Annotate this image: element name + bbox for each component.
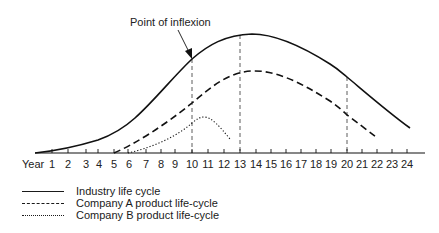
legend: Industry life cycle Company A product li… bbox=[22, 185, 219, 221]
svg-text:6: 6 bbox=[126, 158, 132, 170]
company-a-life-cycle-line bbox=[114, 71, 376, 153]
inflexion-arrow-head-icon bbox=[185, 48, 192, 59]
x-tick-labels: 1 2 3 4 5 6 7 8 9 10 11 12 13 14 15 16 1… bbox=[49, 158, 413, 170]
svg-text:23: 23 bbox=[386, 158, 398, 170]
svg-text:1: 1 bbox=[49, 158, 55, 170]
legend-item-company-b: Company B product life-cycle bbox=[22, 209, 219, 221]
svg-text:8: 8 bbox=[158, 158, 164, 170]
svg-text:2: 2 bbox=[65, 158, 71, 170]
svg-text:9: 9 bbox=[172, 158, 178, 170]
svg-text:20: 20 bbox=[341, 158, 353, 170]
legend-item-industry: Industry life cycle bbox=[22, 185, 219, 197]
inflexion-arrow-shaft bbox=[178, 30, 189, 52]
svg-text:19: 19 bbox=[325, 158, 337, 170]
svg-text:11: 11 bbox=[202, 158, 213, 170]
legend-label: Industry life cycle bbox=[76, 185, 160, 197]
svg-text:16: 16 bbox=[280, 158, 292, 170]
svg-text:22: 22 bbox=[371, 158, 383, 170]
svg-text:5: 5 bbox=[111, 158, 117, 170]
svg-text:17: 17 bbox=[295, 158, 307, 170]
dotted-line-icon bbox=[22, 215, 64, 216]
legend-item-company-a: Company A product life-cycle bbox=[22, 197, 219, 209]
svg-text:12: 12 bbox=[218, 158, 230, 170]
x-axis-label: Year bbox=[22, 158, 45, 170]
svg-text:10: 10 bbox=[186, 158, 198, 170]
svg-text:21: 21 bbox=[356, 158, 368, 170]
svg-text:13: 13 bbox=[234, 158, 246, 170]
svg-text:24: 24 bbox=[401, 158, 413, 170]
inflexion-label: Point of inflexion bbox=[130, 16, 211, 28]
svg-text:14: 14 bbox=[250, 158, 262, 170]
svg-text:15: 15 bbox=[265, 158, 277, 170]
svg-text:18: 18 bbox=[310, 158, 322, 170]
company-b-life-cycle-line bbox=[128, 117, 230, 153]
dashed-line-icon bbox=[22, 203, 64, 204]
svg-text:4: 4 bbox=[96, 158, 102, 170]
solid-line-icon bbox=[22, 191, 64, 192]
industry-life-cycle-line bbox=[35, 34, 410, 153]
legend-label: Company B product life-cycle bbox=[76, 209, 219, 221]
svg-text:7: 7 bbox=[143, 158, 149, 170]
legend-label: Company A product life-cycle bbox=[76, 197, 218, 209]
svg-text:3: 3 bbox=[83, 158, 89, 170]
